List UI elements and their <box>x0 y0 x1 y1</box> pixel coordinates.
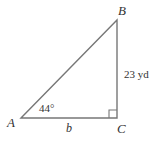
triangle-diagram: A B C 44° 23 yd b <box>0 0 160 142</box>
vertex-label-b: B <box>118 4 126 17</box>
vertex-label-c: C <box>117 122 126 135</box>
angle-a-label: 44° <box>39 103 54 114</box>
side-bc-label: 23 yd <box>124 69 149 80</box>
right-angle-marker <box>109 110 117 118</box>
vertex-label-a: A <box>7 116 15 129</box>
side-ac-label: b <box>66 122 72 134</box>
triangle-outline <box>21 20 117 118</box>
